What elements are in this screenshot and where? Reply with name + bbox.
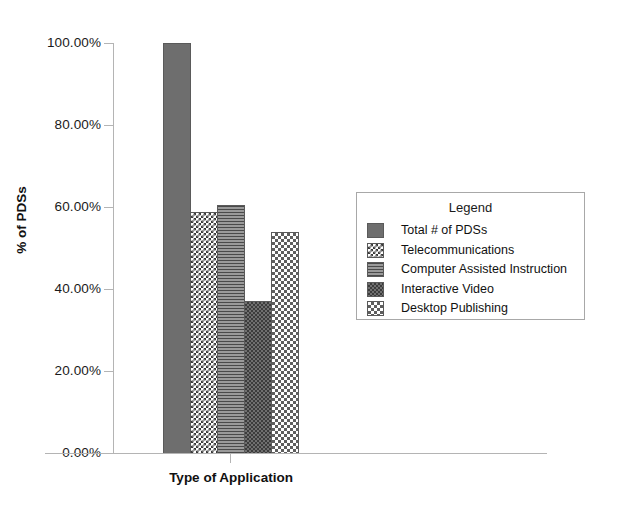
legend-title: Legend bbox=[357, 200, 584, 215]
legend-item-interactive-video[interactable]: Interactive Video bbox=[357, 280, 584, 300]
bar-computer-assisted-instruction[interactable] bbox=[217, 205, 245, 454]
legend: Legend Total # of PDSs Telecommunication… bbox=[356, 192, 585, 320]
x-tick-mark bbox=[230, 454, 231, 463]
legend-item-label: Desktop Publishing bbox=[401, 301, 508, 316]
bar-desktop-publishing[interactable] bbox=[271, 232, 299, 454]
legend-swatch-icon bbox=[367, 223, 384, 238]
legend-items: Total # of PDSs Telecommunications Compu… bbox=[357, 221, 584, 319]
legend-item-label: Interactive Video bbox=[401, 282, 494, 297]
legend-item-desktop-publishing[interactable]: Desktop Publishing bbox=[357, 299, 584, 319]
x-axis-title: Type of Application bbox=[131, 470, 331, 486]
legend-item-label: Telecommunications bbox=[401, 243, 514, 258]
legend-swatch-icon bbox=[367, 243, 384, 258]
legend-swatch-icon bbox=[367, 262, 384, 277]
legend-swatch-icon bbox=[367, 282, 384, 297]
legend-item-telecommunications[interactable]: Telecommunications bbox=[357, 241, 584, 261]
bar-total-pdss[interactable] bbox=[163, 43, 191, 454]
bar-chart: 100.00% 80.00% 60.00% 40.00% 20.00% 0.00… bbox=[0, 0, 618, 507]
legend-item-label: Total # of PDSs bbox=[401, 223, 487, 238]
legend-item-total-pdss[interactable]: Total # of PDSs bbox=[357, 221, 584, 241]
legend-swatch-icon bbox=[367, 301, 384, 316]
legend-item-label: Computer Assisted Instruction bbox=[401, 262, 567, 277]
legend-item-computer-assisted-instruction[interactable]: Computer Assisted Instruction bbox=[357, 260, 584, 280]
x-axis-line bbox=[45, 453, 547, 454]
bar-telecommunications[interactable] bbox=[190, 212, 218, 454]
bar-interactive-video[interactable] bbox=[244, 301, 272, 454]
